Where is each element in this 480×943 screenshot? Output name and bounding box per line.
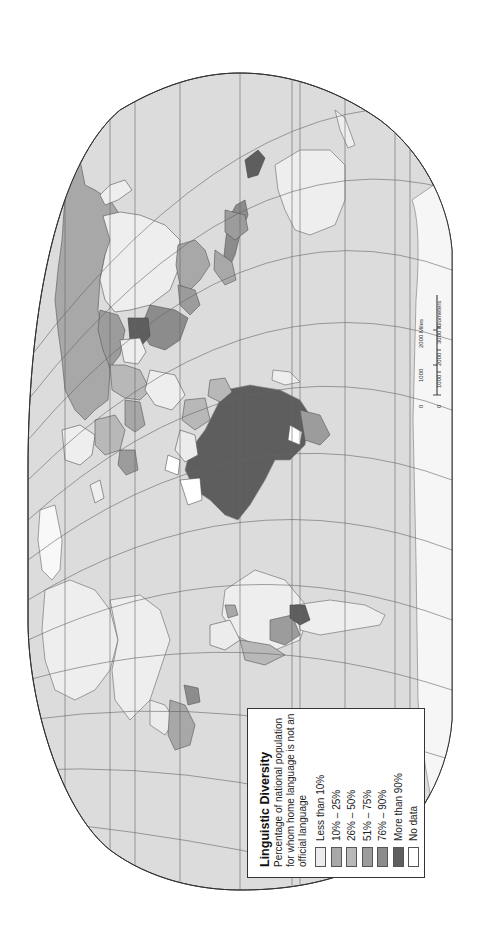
legend-title: Linguistic Diversity (258, 711, 272, 867)
legend-content: Linguistic Diversity Percentage of natio… (252, 705, 428, 873)
scale-miles-0: 0 (418, 405, 424, 408)
legend-label: Less than 10% (315, 775, 326, 841)
scale-km-0: 0 (436, 405, 442, 408)
scale-miles-2000: 2000 Miles (418, 319, 424, 348)
scale-bar-labels: 0 1000 2000 Miles 0 1000 2000 3000 Kilom… (418, 290, 458, 410)
legend-item: 76% – 90% (375, 711, 391, 867)
legend-label: More than 90% (393, 773, 404, 841)
legend-label: 26% – 50% (346, 790, 357, 841)
legend-list: Less than 10% 10% – 25% 26% – 50% 51% – … (313, 711, 422, 867)
legend: Linguistic Diversity Percentage of natio… (247, 708, 425, 878)
legend-item: 51% – 75% (360, 711, 376, 867)
legend-item: Less than 10% (313, 711, 329, 867)
scale-km-1000: 1000 (436, 375, 442, 388)
legend-label: 10% – 25% (331, 790, 342, 841)
legend-label: No data (408, 806, 419, 841)
legend-item: More than 90% (391, 711, 407, 867)
legend-swatch (315, 847, 326, 867)
legend-label: 51% – 75% (362, 790, 373, 841)
legend-label: 76% – 90% (377, 790, 388, 841)
legend-swatch (393, 847, 404, 867)
scale-km-2000: 2000 (436, 353, 442, 366)
legend-swatch (408, 847, 419, 867)
legend-swatch (362, 847, 373, 867)
legend-swatch (346, 847, 357, 867)
scale-km-3000: 3000 Kilometers (436, 301, 442, 344)
legend-subtitle: Percentage of national population for wh… (273, 711, 309, 867)
legend-swatch (331, 847, 342, 867)
legend-item: 10% – 25% (329, 711, 345, 867)
scale-miles-1000: 1000 (418, 369, 424, 382)
legend-swatch (377, 847, 388, 867)
legend-item: No data (406, 711, 422, 867)
legend-item: 26% – 50% (344, 711, 360, 867)
